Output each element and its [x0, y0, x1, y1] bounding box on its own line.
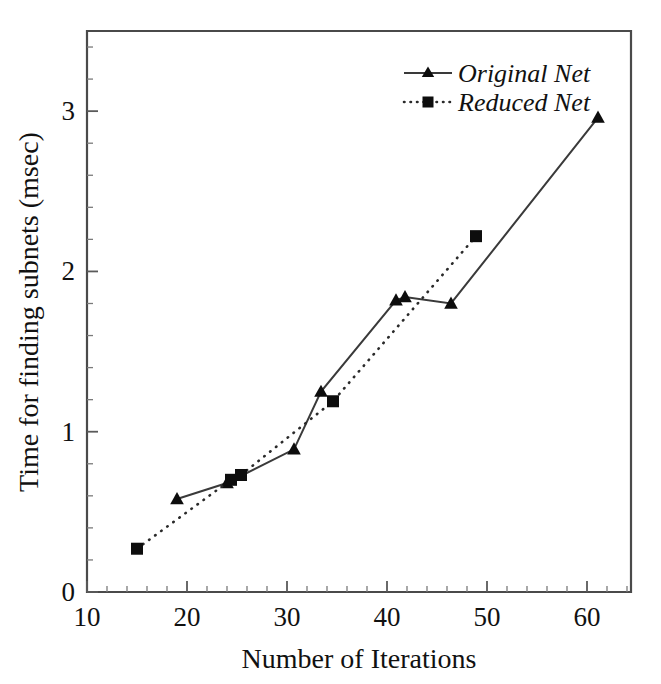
- x-axis-title: Number of Iterations: [242, 643, 477, 674]
- x-tick-label: 30: [274, 602, 301, 632]
- chart-legend: Original Net Reduced Net: [404, 59, 591, 117]
- series-original-net: [170, 111, 605, 505]
- y-tick-label: 0: [62, 577, 76, 607]
- data-point-triangle: [591, 111, 605, 123]
- series-reduced-net: [131, 230, 482, 555]
- y-tick-label: 2: [62, 256, 76, 286]
- y-axis-title: Time for finding subnets (msec): [13, 132, 44, 492]
- line-chart-svg: 102030405060 0123 Original Net Reduced N…: [0, 0, 661, 684]
- legend-label-reduced-net: Reduced Net: [457, 88, 591, 117]
- legend-marker-triangle-icon: [422, 67, 434, 78]
- legend-marker-square-icon: [423, 97, 434, 108]
- data-point-triangle: [287, 442, 301, 454]
- series-line: [137, 236, 476, 549]
- x-axis-tick-labels: 102030405060: [74, 602, 601, 632]
- x-tick-label: 40: [374, 602, 401, 632]
- series-line: [177, 118, 598, 499]
- x-tick-label: 10: [74, 602, 101, 632]
- legend-label-original-net: Original Net: [458, 59, 591, 88]
- data-series-layer: [131, 111, 605, 555]
- data-point-triangle: [398, 290, 412, 302]
- chart-figure: 102030405060 0123 Original Net Reduced N…: [0, 0, 661, 684]
- y-tick-label: 1: [62, 417, 76, 447]
- data-point-square: [131, 543, 143, 555]
- y-axis-tick-labels: 0123: [62, 96, 76, 607]
- data-point-square: [327, 395, 339, 407]
- data-point-square: [470, 230, 482, 242]
- x-tick-label: 60: [574, 602, 601, 632]
- x-axis-ticks: [87, 581, 627, 592]
- y-axis-ticks: [87, 47, 98, 592]
- y-tick-label: 3: [62, 96, 76, 126]
- data-point-square: [235, 469, 247, 481]
- x-tick-label: 50: [474, 602, 501, 632]
- x-tick-label: 20: [174, 602, 201, 632]
